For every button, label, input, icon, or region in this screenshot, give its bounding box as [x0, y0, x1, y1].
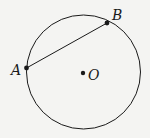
- point-b: [105, 21, 110, 26]
- label-a: A: [9, 62, 21, 78]
- point-a: [24, 66, 29, 71]
- chord-ab: [27, 23, 108, 68]
- label-o: O: [88, 67, 100, 83]
- point-o-center: [81, 71, 85, 75]
- label-b: B: [111, 7, 122, 23]
- geometry-diagram: A B O: [0, 0, 150, 138]
